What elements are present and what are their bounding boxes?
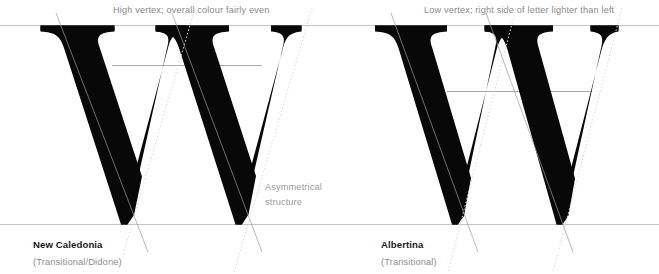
letterform-diagram-canvas <box>0 0 659 274</box>
dotted-reference-2 <box>234 8 312 272</box>
annotation-asymmetrical-structure-line1: Asymmetrical <box>265 180 322 196</box>
glyph-stroke-2 <box>121 26 186 225</box>
glyph-serif-2 <box>156 26 230 31</box>
specimen-glyph-new-caledonia <box>41 26 302 225</box>
annotation-low-vertex: Low vertex; right side of letter lighter… <box>424 3 614 18</box>
glyph-serif-1 <box>41 26 115 31</box>
specimen-classification-albertina: (Transitional) <box>381 256 437 267</box>
glyph-stroke-1 <box>375 26 471 225</box>
glyph-stroke-3 <box>485 26 576 225</box>
glyph-stroke-3 <box>156 26 257 225</box>
annotation-asymmetrical-structure-line2: structure <box>265 195 302 211</box>
annotation-high-vertex: High vertex; overall colour fairly even <box>113 3 270 18</box>
typography-comparison-figure: High vertex; overall colour fairly even … <box>0 0 659 274</box>
glyph-serif-1 <box>375 26 447 31</box>
stress-line-1 <box>391 13 478 252</box>
glyph-stroke-1 <box>41 26 143 225</box>
specimen-label-albertina: Albertina <box>381 239 423 250</box>
glyph-serif-3 <box>271 26 302 31</box>
specimen-classification-new-caledonia: (Transitional/Didone) <box>33 256 122 267</box>
glyph-serif-2 <box>485 26 554 31</box>
specimen-glyph-albertina <box>375 26 619 225</box>
stress-line-2 <box>172 13 262 252</box>
glyph-serif-3 <box>591 26 619 31</box>
stress-line-1 <box>56 13 148 252</box>
specimen-label-new-caledonia: New Caledonia <box>33 239 103 250</box>
